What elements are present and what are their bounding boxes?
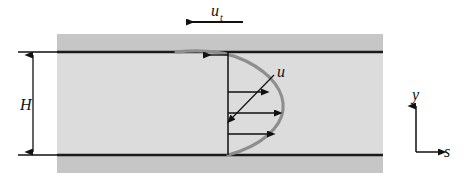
channel-interior (57, 52, 383, 155)
couette-flow-figure: u t u H y s (0, 0, 464, 183)
figure-canvas: u t u H y s (0, 0, 464, 183)
channel-height-label: H (19, 96, 33, 113)
wall-velocity-label: u (211, 2, 219, 19)
axis-y-label: y (410, 86, 420, 104)
lower-wall-band (57, 155, 383, 173)
axis-s-label: s (444, 143, 450, 160)
wall-velocity-subscript-label: t (220, 12, 223, 23)
velocity-profile-label: u (277, 63, 285, 80)
upper-wall-band (57, 34, 383, 52)
